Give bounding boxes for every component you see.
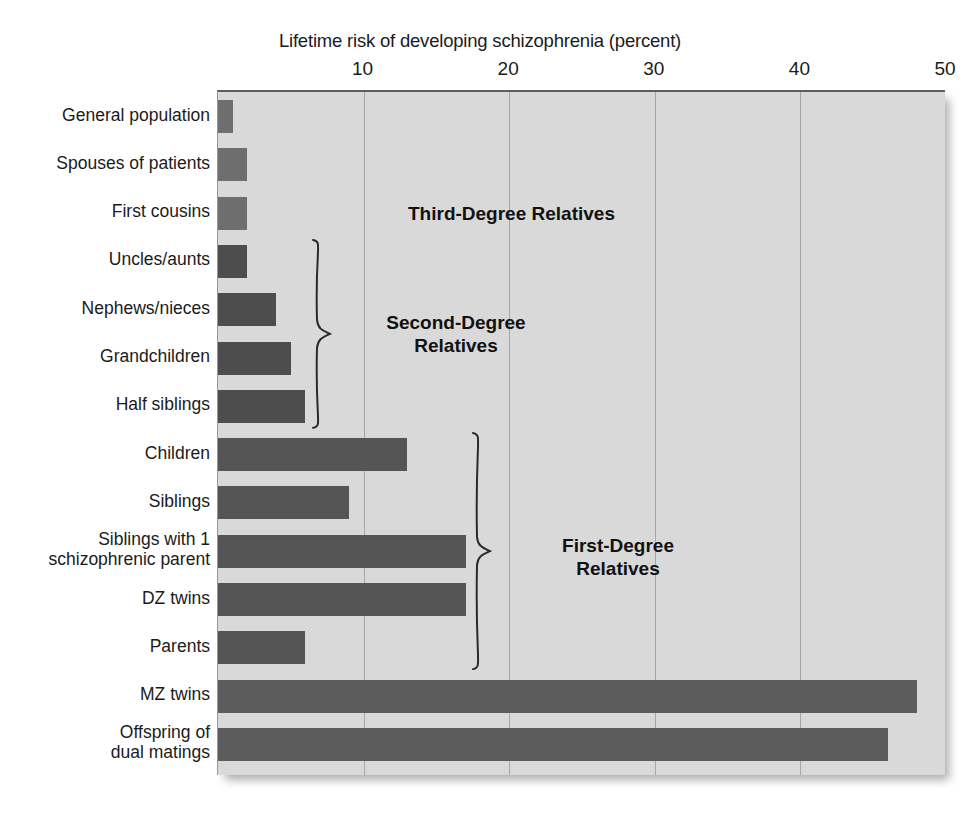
bar (218, 486, 349, 519)
bar (218, 293, 276, 326)
group-label-first-degree: First-DegreeRelatives (562, 534, 674, 580)
y-axis-label-line: Grandchildren (4, 346, 210, 366)
bar (218, 342, 291, 375)
bar (218, 728, 888, 761)
bar (218, 583, 466, 616)
y-axis-label: Nephews/nieces (4, 298, 210, 318)
group-label-line: Third-Degree Relatives (408, 202, 615, 225)
brace-second-degree (311, 239, 333, 429)
y-axis-label-line: dual matings (4, 742, 210, 762)
x-tick-label-30: 30 (643, 58, 664, 80)
x-tick-label-20: 20 (498, 58, 519, 80)
group-label-third-degree: Third-Degree Relatives (408, 202, 615, 225)
y-axis-label: General population (4, 105, 210, 125)
bar (218, 438, 407, 471)
y-axis-label-line: schizophrenic parent (4, 549, 210, 569)
y-axis-label: Parents (4, 636, 210, 656)
bar (218, 390, 305, 423)
y-axis-label-line: DZ twins (4, 588, 210, 608)
gridline-30 (655, 92, 656, 775)
group-label-line: Second-Degree (386, 311, 525, 334)
y-axis-label: DZ twins (4, 588, 210, 608)
y-axis-label: Siblings (4, 491, 210, 511)
y-axis-label: First cousins (4, 201, 210, 221)
y-axis-label-line: Nephews/nieces (4, 298, 210, 318)
y-axis-label-line: Siblings with 1 (4, 529, 210, 549)
y-axis-label: Spouses of patients (4, 153, 210, 173)
group-label-second-degree: Second-DegreeRelatives (386, 311, 525, 357)
y-axis-label: Siblings with 1schizophrenic parent (4, 529, 210, 569)
y-axis-label-line: Offspring of (4, 722, 210, 742)
y-axis-label-line: MZ twins (4, 684, 210, 704)
y-axis-label-line: Children (4, 443, 210, 463)
y-axis-label: Offspring ofdual matings (4, 722, 210, 762)
y-axis-label-line: First cousins (4, 201, 210, 221)
y-axis-label: Half siblings (4, 394, 210, 414)
y-axis-label-line: Siblings (4, 491, 210, 511)
bar (218, 680, 917, 713)
brace-first-degree (471, 432, 493, 670)
group-label-line: Relatives (386, 334, 525, 357)
chart-title: Lifetime risk of developing schizophreni… (0, 30, 960, 52)
y-axis-label-line: Half siblings (4, 394, 210, 414)
bar (218, 197, 247, 230)
bar (218, 148, 247, 181)
y-axis-label-line: General population (4, 105, 210, 125)
bar (218, 631, 305, 664)
chart-figure: Lifetime risk of developing schizophreni… (0, 0, 980, 833)
gridline-10 (364, 92, 365, 775)
x-tick-label-50: 50 (934, 58, 955, 80)
plot-area: Third-Degree RelativesSecond-DegreeRelat… (217, 90, 945, 775)
bar (218, 245, 247, 278)
y-axis-label-line: Spouses of patients (4, 153, 210, 173)
bar (218, 100, 233, 133)
y-axis-label-line: Parents (4, 636, 210, 656)
y-axis-label: Uncles/aunts (4, 249, 210, 269)
x-tick-label-10: 10 (352, 58, 373, 80)
gridline-20 (509, 92, 510, 775)
bar (218, 535, 466, 568)
gridline-40 (800, 92, 801, 775)
y-axis-label: Grandchildren (4, 346, 210, 366)
y-axis-label: Children (4, 443, 210, 463)
x-tick-label-40: 40 (789, 58, 810, 80)
y-axis-label: MZ twins (4, 684, 210, 704)
y-axis-label-line: Uncles/aunts (4, 249, 210, 269)
group-label-line: Relatives (562, 557, 674, 580)
group-label-line: First-Degree (562, 534, 674, 557)
